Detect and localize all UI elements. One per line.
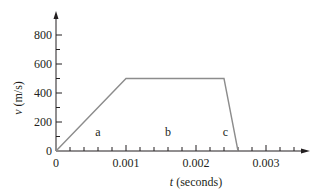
x-tick-label: 0.002 [183, 156, 210, 170]
y-axis: 0200400600800 [34, 11, 62, 158]
y-axis-unit: (m/s) [11, 81, 25, 109]
x-axis-arrow-icon [301, 149, 310, 154]
x-axis: 00.0010.0020.003 [53, 145, 310, 170]
velocity-line [56, 79, 238, 152]
y-axis-title: v (m/s) [11, 81, 25, 115]
x-tick-label: 0.003 [253, 156, 280, 170]
x-tick-label: 0.001 [113, 156, 140, 170]
y-tick-label: 600 [34, 57, 52, 71]
data-series [56, 79, 238, 152]
y-tick-label: 200 [34, 115, 52, 129]
y-tick-label: 0 [46, 144, 52, 158]
region-label-c: c [223, 125, 228, 139]
y-tick-label: 800 [34, 28, 52, 42]
region-label-a: a [95, 125, 101, 139]
y-tick-label: 400 [34, 86, 52, 100]
velocity-time-chart: 0200400600800 00.0010.0020.003 abc v (m/… [0, 0, 317, 192]
region-label-b: b [165, 125, 171, 139]
y-axis-arrow-icon [54, 11, 59, 19]
region-labels: abc [95, 125, 228, 139]
x-tick-label: 0 [53, 156, 59, 170]
x-axis-title: t (seconds) [170, 175, 222, 189]
x-axis-unit: (seconds) [173, 175, 222, 189]
